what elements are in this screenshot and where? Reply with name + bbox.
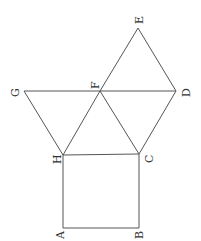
label-B: B bbox=[133, 231, 146, 239]
segment-FC bbox=[100, 91, 139, 154]
label-D: D bbox=[180, 88, 193, 97]
label-G: G bbox=[9, 88, 22, 97]
label-C: C bbox=[143, 155, 156, 163]
segment-GH bbox=[24, 91, 63, 155]
segment-DE bbox=[138, 28, 176, 91]
segments bbox=[24, 28, 176, 228]
geometry-diagram: A B C H G F D E bbox=[0, 0, 201, 241]
label-F: F bbox=[89, 81, 102, 89]
segment-CD bbox=[139, 91, 176, 154]
segment-CH bbox=[63, 154, 139, 155]
label-A: A bbox=[54, 230, 67, 240]
segment-HF bbox=[63, 91, 100, 155]
segment-EF bbox=[100, 28, 138, 91]
point-labels: A B C H G F D E bbox=[9, 16, 193, 240]
label-E: E bbox=[133, 16, 146, 24]
label-H: H bbox=[51, 154, 64, 164]
